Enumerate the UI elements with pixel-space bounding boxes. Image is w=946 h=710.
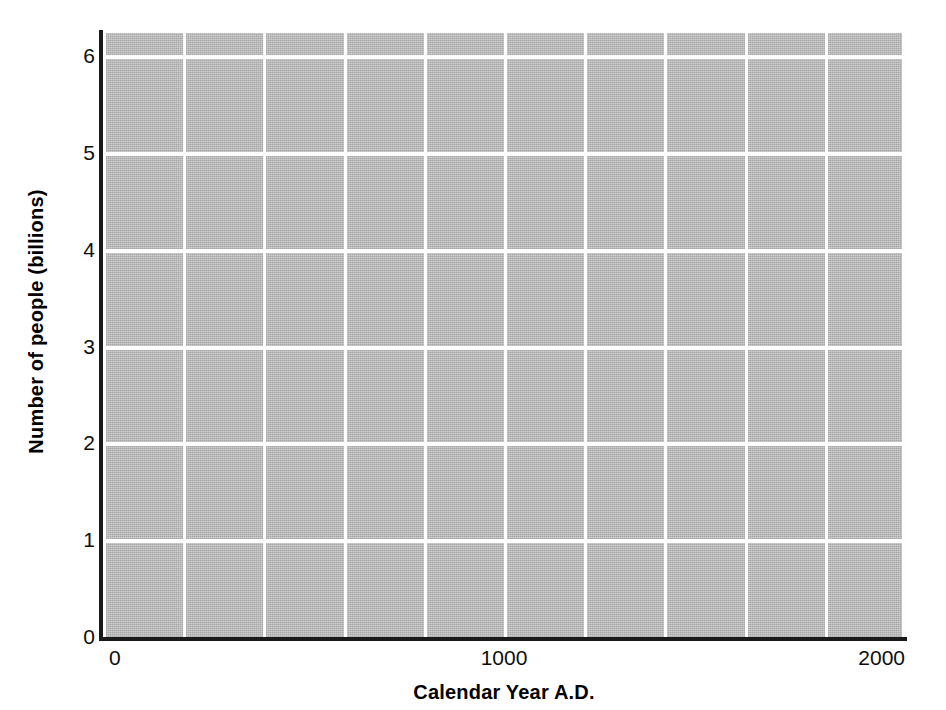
gridline-vertical xyxy=(664,33,667,638)
gridline-vertical xyxy=(584,33,587,638)
x-tick-label: 2000 xyxy=(858,646,905,670)
gridline-vertical xyxy=(825,33,828,638)
x-axis-line xyxy=(99,637,907,641)
x-tick-label: 0 xyxy=(109,646,121,670)
gridline-horizontal xyxy=(103,152,905,156)
gridline-horizontal xyxy=(103,539,905,543)
gridline-vertical xyxy=(745,33,748,638)
y-tick-label: 4 xyxy=(55,238,95,262)
gridline-horizontal xyxy=(103,442,905,446)
y-tick-label: 3 xyxy=(55,335,95,359)
y-tick-label: 0 xyxy=(55,625,95,649)
y-tick-label: 2 xyxy=(55,431,95,455)
y-tick-label: 5 xyxy=(55,141,95,165)
gridline-vertical xyxy=(103,33,106,638)
gridline-horizontal xyxy=(103,55,905,59)
x-tick-label: 1000 xyxy=(481,646,528,670)
gridline-horizontal xyxy=(103,249,905,253)
gridline-vertical xyxy=(504,33,507,638)
x-axis-title: Calendar Year A.D. xyxy=(103,681,905,704)
y-tick-label: 1 xyxy=(55,528,95,552)
gridline-vertical xyxy=(263,33,266,638)
gridline-vertical xyxy=(902,33,905,638)
y-tick-label: 6 xyxy=(55,44,95,68)
y-axis-tick-labels: 0123456 xyxy=(45,0,95,710)
gridline-vertical xyxy=(344,33,347,638)
y-axis-line xyxy=(99,30,103,641)
population-chart-figure: 0123456 010002000 Number of people (bill… xyxy=(0,0,946,710)
gridline-horizontal xyxy=(103,346,905,350)
y-axis-title: Number of people (billions) xyxy=(25,112,48,532)
gridline-vertical xyxy=(183,33,186,638)
plot-area xyxy=(103,33,905,638)
gridline-vertical xyxy=(424,33,427,638)
